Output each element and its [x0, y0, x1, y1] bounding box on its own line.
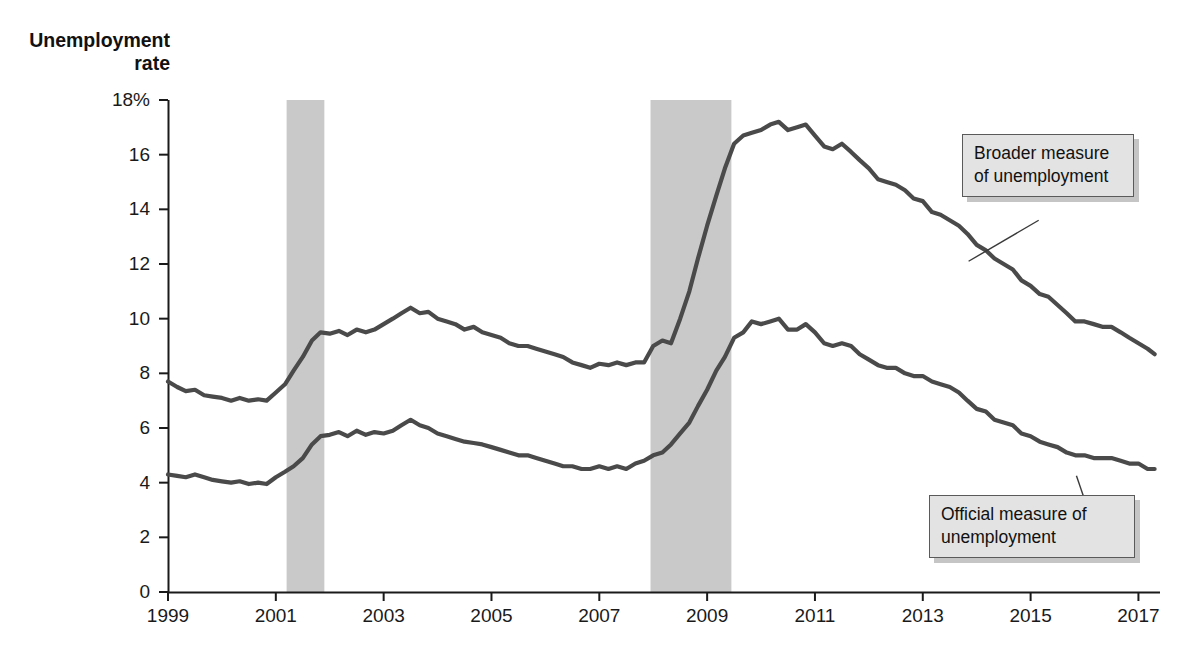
y-axis-tick-label: 2 [92, 526, 150, 548]
y-axis-tick-label: 8 [92, 362, 150, 384]
annotation-official-measure: Official measure of unemployment [929, 495, 1135, 558]
x-axis-tick-label: 2009 [667, 605, 747, 627]
y-axis-tick-label: 16 [92, 144, 150, 166]
y-axis-tick-label: 6 [92, 417, 150, 439]
x-axis-tick-label: 2007 [559, 605, 639, 627]
y-axis-ticks [159, 100, 168, 592]
annotation-leader-lines [969, 220, 1098, 538]
x-axis-tick-label: 2005 [451, 605, 531, 627]
recession-band [287, 100, 325, 592]
x-axis-tick-label: 2013 [883, 605, 963, 627]
y-axis-tick-label: 10 [92, 308, 150, 330]
y-axis-tick-label: 12 [92, 253, 150, 275]
annotation-leader-line [969, 220, 1039, 261]
y-axis-tick-label: 14 [92, 198, 150, 220]
x-axis-tick-label: 1999 [128, 605, 208, 627]
recession-bands [287, 100, 732, 592]
annotation-broader-measure: Broader measure of unemployment [962, 134, 1134, 197]
chart-figure: Unemployment rate Broader measure of une… [0, 0, 1187, 656]
y-axis-tick-label: 4 [92, 472, 150, 494]
x-axis-tick-label: 2001 [236, 605, 316, 627]
x-axis-tick-label: 2015 [991, 605, 1071, 627]
y-axis-title: Unemployment rate [20, 29, 170, 75]
recession-band [651, 100, 732, 592]
y-axis-tick-label: 18% [92, 89, 150, 111]
x-axis-tick-label: 2003 [344, 605, 424, 627]
x-axis-tick-label: 2011 [775, 605, 855, 627]
y-axis-tick-label: 0 [92, 581, 150, 603]
x-axis-tick-label: 2017 [1098, 605, 1178, 627]
